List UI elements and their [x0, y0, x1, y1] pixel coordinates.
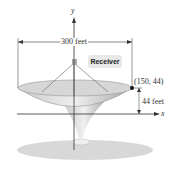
parabolic-dish-diagram: y x 300 feet Receiver (150, 44) 44 feet: [0, 0, 177, 175]
point-label: (150, 44): [134, 78, 163, 86]
receiver: [72, 59, 77, 65]
dish-rim: [18, 80, 132, 96]
receiver-label: Receiver: [88, 55, 122, 68]
dish-drawing: [0, 0, 177, 175]
y-axis-label: y: [71, 7, 75, 15]
x-axis-label: x: [161, 110, 165, 118]
width-label: 300 feet: [60, 38, 88, 46]
height-label: 44 feet: [142, 98, 164, 106]
